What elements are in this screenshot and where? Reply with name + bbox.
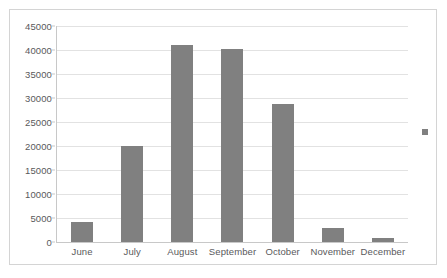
y-axis-tick-mark (52, 122, 55, 123)
bar[interactable] (121, 146, 143, 242)
y-axis-tick-label: 20000 (25, 141, 52, 152)
x-axis-tick-label: October (265, 246, 300, 257)
y-axis-tick-mark (52, 218, 55, 219)
y-axis-tick-label: 15000 (25, 165, 52, 176)
y-axis-tick-mark (52, 242, 55, 243)
bar-slot (308, 26, 358, 242)
bar[interactable] (272, 104, 294, 242)
y-axis-tick-label: 40000 (25, 45, 52, 56)
bar[interactable] (71, 222, 93, 242)
bar-slot (358, 26, 408, 242)
y-axis-tick-label: 30000 (25, 93, 52, 104)
y-axis-tick-label: 45000 (25, 21, 52, 32)
x-axis-tick-label: August (167, 246, 197, 257)
bar-slot (207, 26, 257, 242)
gridline (57, 242, 408, 243)
bar[interactable] (221, 49, 243, 242)
y-axis-tick-label: 5000 (30, 213, 52, 224)
y-axis-tick-label: 25000 (25, 117, 52, 128)
y-axis-tick-mark (52, 26, 55, 27)
y-axis-tick-labels: 0500010000150002000025000300003500040000… (10, 26, 52, 242)
bar-slot (258, 26, 308, 242)
y-axis-tick-mark (52, 146, 55, 147)
plot-area (57, 26, 408, 242)
y-axis-tick-label: 35000 (25, 69, 52, 80)
legend-marker-icon (422, 129, 428, 135)
bar[interactable] (322, 228, 344, 242)
x-axis-tick-label: July (124, 246, 141, 257)
y-axis-tick-mark (52, 74, 55, 75)
y-axis-tick-label: 10000 (25, 189, 52, 200)
y-axis-tick-mark (52, 98, 55, 99)
x-axis-tick-label: June (72, 246, 93, 257)
bar[interactable] (171, 45, 193, 242)
bar-slot (57, 26, 107, 242)
chart-container: 0500010000150002000025000300003500040000… (9, 9, 437, 265)
y-axis-tick-mark (52, 170, 55, 171)
y-axis-tick-mark (52, 50, 55, 51)
bar-slot (157, 26, 207, 242)
bar[interactable] (372, 238, 394, 242)
x-axis-tick-label: November (310, 246, 355, 257)
x-axis-tick-label: December (361, 246, 406, 257)
x-axis-tick-label: September (209, 246, 256, 257)
y-axis-tick-mark (52, 194, 55, 195)
x-axis-tick-labels: JuneJulyAugustSeptemberOctoberNovemberDe… (57, 246, 408, 262)
bar-slot (107, 26, 157, 242)
